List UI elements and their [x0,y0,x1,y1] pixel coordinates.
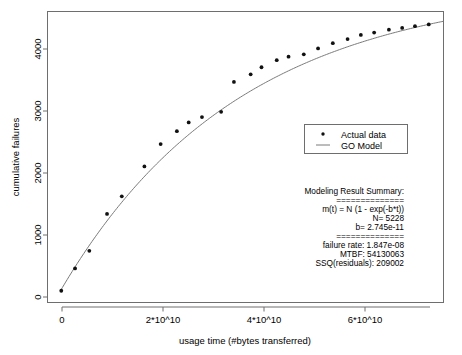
data-point [105,212,109,216]
legend: Actual data GO Model [305,125,408,154]
data-point [413,24,417,28]
data-point [346,37,350,41]
data-point [159,142,163,146]
data-point [232,80,236,84]
data-point [287,55,291,59]
data-point [427,23,431,27]
x-axis-title: usage time (#bytes transferred) [179,335,311,346]
y-tick-label-0: 0 [32,294,43,299]
data-point [87,249,91,253]
modeling-result-summary: Modeling Result Summary: ============== … [304,186,404,268]
y-axis: 0 1000 2000 3000 4000 cumulative failure… [10,38,48,299]
data-point [73,267,77,271]
x-tick-label-0: 0 [59,314,64,325]
chart-figure: 0 1000 2000 3000 4000 cumulative failure… [0,0,462,355]
y-tick-label-4000: 4000 [32,38,43,59]
data-point [359,33,363,37]
y-tick-label-3000: 3000 [32,100,43,121]
y-tick-label-1000: 1000 [32,224,43,245]
data-point [302,52,306,56]
data-point [249,72,253,76]
data-point [187,120,191,124]
x-tick-label-4e10: 4*10^10 [247,314,282,325]
x-tick-label-2e10: 2*10^10 [146,314,181,325]
y-tick-label-2000: 2000 [32,162,43,183]
data-point [316,47,320,51]
plot-svg: 0 1000 2000 3000 4000 cumulative failure… [0,0,462,355]
data-point [200,115,204,119]
legend-label-go-model: GO Model [341,141,382,151]
data-point [275,58,279,62]
data-point [219,110,223,114]
data-point [387,28,391,32]
y-axis-title: cumulative failures [10,117,21,196]
x-tick-label-6e10: 6*10^10 [348,314,383,325]
data-point [120,194,124,198]
data-point [59,289,63,293]
summary-ssq: SSQ(residuals): 209002 [315,258,404,268]
legend-label-actual-data: Actual data [341,130,386,140]
data-point [400,26,404,30]
x-axis: 0 2*10^10 4*10^10 6*10^10 usage time (#b… [59,307,430,346]
data-point [175,129,179,133]
data-point [260,65,264,69]
data-point [372,31,376,35]
data-point [143,164,147,168]
data-point [331,41,335,45]
legend-point-icon [321,132,324,135]
